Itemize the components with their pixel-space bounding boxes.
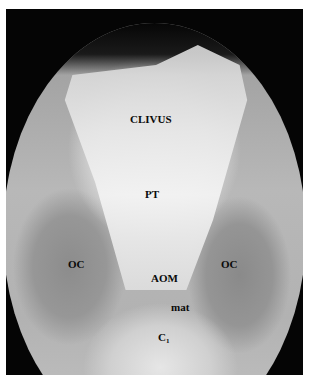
- label-c1-main: C: [158, 331, 166, 343]
- label-aom: AOM: [151, 273, 178, 284]
- label-oc-left: OC: [68, 259, 85, 270]
- label-c1-subscript: 1: [166, 337, 170, 345]
- label-mat: mat: [171, 302, 189, 313]
- label-c1: C1: [158, 332, 169, 345]
- label-pt: PT: [145, 189, 159, 200]
- label-clivus: CLIVUS: [130, 114, 172, 125]
- label-oc-right: OC: [221, 259, 238, 270]
